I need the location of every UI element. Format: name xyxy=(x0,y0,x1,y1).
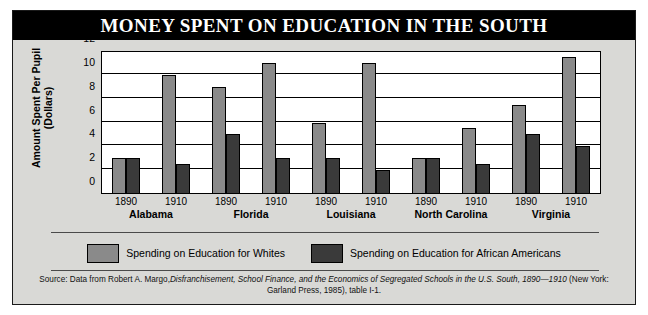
y-tick-label: 0 xyxy=(89,175,95,187)
legend-divider-top xyxy=(51,232,599,233)
chart-title-bar: MONEY SPENT ON EDUCATION IN THE SOUTH xyxy=(13,11,635,40)
bar-pair xyxy=(212,51,240,194)
bar xyxy=(362,63,376,194)
x-tick-year: 1890 xyxy=(415,196,437,207)
x-tick-year: 1890 xyxy=(315,196,337,207)
x-tick-year: 1910 xyxy=(565,196,587,207)
bar-group xyxy=(201,51,301,194)
source-citation: Source: Data from Robert A. Margo,Disfra… xyxy=(13,274,635,296)
bar-pair xyxy=(112,51,140,194)
chart-area: Amount Spent Per Pupil (Dollars) 0246810… xyxy=(13,40,635,306)
bar xyxy=(312,123,326,195)
bar xyxy=(376,170,390,194)
bar xyxy=(426,158,440,194)
source-prefix: Source: Data from Robert A. Margo, xyxy=(39,275,170,284)
bar xyxy=(226,134,240,194)
bar-group xyxy=(401,51,501,194)
bar xyxy=(476,164,490,194)
bar xyxy=(512,105,526,194)
y-tick-label: 6 xyxy=(89,104,95,116)
bar xyxy=(162,75,176,194)
legend-item-african-americans: Spending on Education for African Americ… xyxy=(311,244,561,263)
x-group-label: 18901910Alabama xyxy=(101,196,201,230)
bar-pair xyxy=(162,51,190,194)
y-tick-label: 4 xyxy=(89,127,95,139)
bar xyxy=(526,134,540,194)
bar-pair xyxy=(462,51,490,194)
bar-group xyxy=(301,51,401,194)
bar-pair xyxy=(312,51,340,194)
x-tick-year: 1910 xyxy=(465,196,487,207)
bar xyxy=(176,164,190,194)
x-tick-year: 1910 xyxy=(365,196,387,207)
chart-figure: MONEY SPENT ON EDUCATION IN THE SOUTH Am… xyxy=(12,10,636,305)
bar xyxy=(562,57,576,194)
bar xyxy=(112,158,126,194)
legend-label-whites: Spending on Education for Whites xyxy=(126,247,285,259)
bar xyxy=(262,63,276,194)
y-tick-label: 10 xyxy=(83,56,95,68)
legend-divider-bottom xyxy=(51,270,599,271)
x-axis-labels: 18901910Alabama18901910Florida18901910Lo… xyxy=(101,196,601,230)
bar-pair xyxy=(512,51,540,194)
bar xyxy=(126,158,140,194)
x-group-name: Florida xyxy=(201,208,301,220)
source-title: Disfranchisement, School Finance, and th… xyxy=(170,275,567,284)
bar-pair xyxy=(562,51,590,194)
bar-pair xyxy=(262,51,290,194)
x-group-name: Virginia xyxy=(501,208,601,220)
x-group-label: 18901910Virginia xyxy=(501,196,601,230)
bar xyxy=(576,146,590,194)
y-tick-label: 8 xyxy=(89,80,95,92)
bar xyxy=(326,158,340,194)
x-tick-year: 1890 xyxy=(515,196,537,207)
y-tick-label: 12 xyxy=(83,32,95,44)
bar xyxy=(462,128,476,194)
legend-swatch-african-americans xyxy=(311,244,343,263)
page-title: MONEY SPENT ON EDUCATION IN THE SOUTH xyxy=(101,15,548,37)
bar-pair xyxy=(362,51,390,194)
legend-label-african-americans: Spending on Education for African Americ… xyxy=(350,247,561,259)
bar-group xyxy=(501,51,601,194)
bar xyxy=(212,87,226,194)
x-group-label: 18901910Florida xyxy=(201,196,301,230)
x-tick-year: 1910 xyxy=(165,196,187,207)
bar-group xyxy=(101,51,201,194)
chart-legend: Spending on Education for Whites Spendin… xyxy=(13,236,635,270)
x-tick-year: 1890 xyxy=(115,196,137,207)
legend-item-whites: Spending on Education for Whites xyxy=(87,244,285,263)
bar xyxy=(412,158,426,194)
x-group-name: Louisiana xyxy=(301,208,401,220)
x-group-name: North Carolina xyxy=(401,208,501,220)
x-tick-year: 1890 xyxy=(215,196,237,207)
x-group-label: 18901910Louisiana xyxy=(301,196,401,230)
bar-groups xyxy=(101,51,601,194)
bar-pair xyxy=(412,51,440,194)
legend-swatch-whites xyxy=(87,244,119,263)
bar xyxy=(276,158,290,194)
x-group-name: Alabama xyxy=(101,208,201,220)
y-tick-label: 2 xyxy=(89,151,95,163)
x-tick-year: 1910 xyxy=(265,196,287,207)
x-group-label: 18901910North Carolina xyxy=(401,196,501,230)
y-axis-ticks: 024681012 xyxy=(13,51,101,194)
